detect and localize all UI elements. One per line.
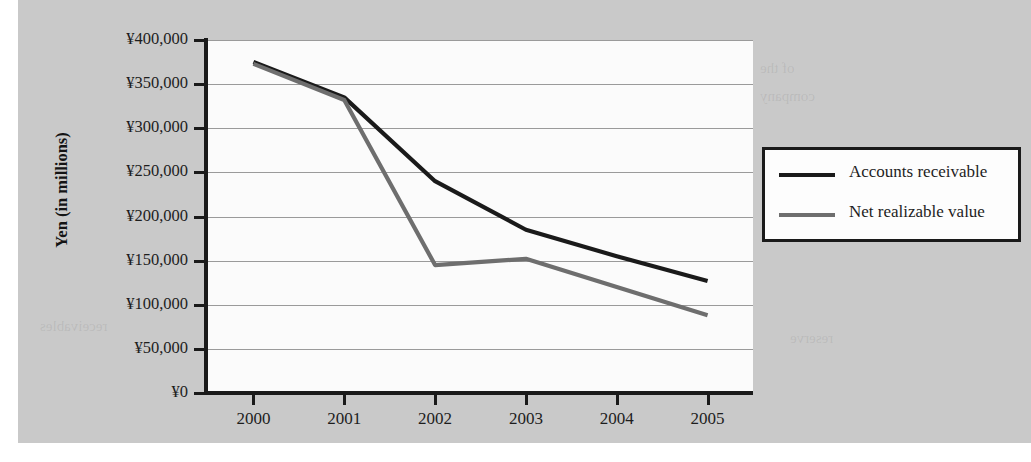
line-chart: ¥0¥50,000¥100,000¥150,000¥200,000¥250,00… — [18, 0, 1031, 443]
legend-label-accounts-receivable: Accounts receivable — [849, 162, 987, 182]
legend-item-net-realizable-value: Net realizable value — [765, 200, 1018, 230]
legend-label-net-realizable-value: Net realizable value — [849, 202, 985, 222]
scanned-chart-page: KEY EXHIBIT ACCOUNTS the amounts that ar… — [0, 0, 1031, 462]
series-line-net-realizable-value — [253, 64, 707, 316]
legend-item-accounts-receivable: Accounts receivable — [765, 160, 1018, 190]
series-line-accounts-receivable — [253, 62, 707, 281]
chart-legend: Accounts receivable Net realizable value — [762, 147, 1021, 242]
legend-swatch-accounts-receivable — [779, 173, 835, 177]
legend-swatch-net-realizable-value — [779, 213, 835, 217]
